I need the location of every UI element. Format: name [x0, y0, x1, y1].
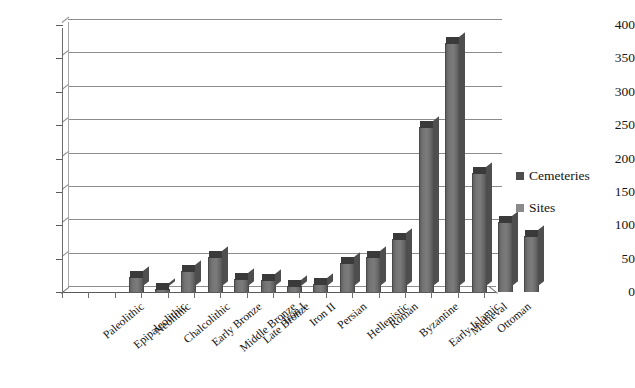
- bar: [181, 271, 196, 292]
- legend-swatch-icon: [516, 204, 524, 212]
- chart-legend: CemeteriesSites: [516, 168, 631, 232]
- y-axis-tick-label: 350: [589, 51, 635, 64]
- bar: [472, 173, 487, 292]
- bar-series-group: [62, 25, 496, 292]
- y-axis-tick-label: 0: [589, 285, 635, 298]
- bar: [419, 127, 434, 292]
- y-axis-tick-label: 400: [589, 18, 635, 31]
- legend-item: Cemeteries: [516, 168, 631, 183]
- legend-swatch-icon: [516, 172, 524, 180]
- y-axis-tick-label: 300: [589, 85, 635, 98]
- x-axis-category-label: Persian: [334, 300, 368, 331]
- bar: [287, 286, 302, 292]
- bar: [234, 279, 249, 292]
- legend-item: Sites: [516, 200, 631, 215]
- bar: [340, 263, 355, 292]
- gridline: [68, 19, 502, 20]
- y-axis-tick-label: 200: [589, 152, 635, 165]
- bar: [445, 43, 460, 292]
- bar: [155, 289, 170, 292]
- y-axis-tick-label: 50: [589, 252, 635, 265]
- bar: [313, 284, 328, 292]
- bar: [129, 277, 144, 292]
- bar: [498, 222, 513, 292]
- bar: [208, 257, 223, 292]
- y-axis-tick-label: 250: [589, 118, 635, 131]
- bar-chart: 400350300250200150100500 PaleolithicEpip…: [0, 0, 635, 388]
- bar: [261, 280, 276, 292]
- bar: [524, 236, 539, 292]
- x-axis-labels: PaleolithicEpipaleolithicNeolithicChalco…: [0, 298, 635, 388]
- bar: [392, 239, 407, 292]
- bar: [366, 257, 381, 292]
- legend-item-label: Sites: [529, 200, 555, 215]
- x-axis-category-label: Iron II: [307, 300, 337, 328]
- legend-item-label: Cemeteries: [529, 168, 590, 183]
